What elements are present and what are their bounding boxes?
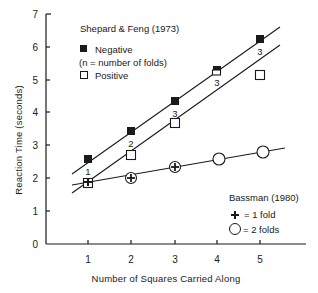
n-label-3: 3 <box>172 108 177 119</box>
negative-point-1 <box>84 155 92 163</box>
y-tick-2: 2 <box>32 173 38 184</box>
negative-point-5 <box>256 35 264 43</box>
bassman-point-4 <box>213 153 225 165</box>
x-tick-2: 2 <box>128 254 134 265</box>
legend1-title: Shepard & Feng (1973) <box>80 23 179 34</box>
y-tick-4: 4 <box>32 107 38 118</box>
y-tick-0: 0 <box>32 239 38 250</box>
n-label-5: 3 <box>257 46 262 57</box>
y-tick-7: 7 <box>32 9 38 20</box>
x-tick-4: 4 <box>214 254 220 265</box>
open-square-icon <box>81 72 88 79</box>
y-tick-5: 5 <box>32 75 38 86</box>
positive-point-3 <box>171 119 180 128</box>
plus-icon <box>231 211 239 219</box>
positive-point-2 <box>127 151 136 160</box>
y-tick-3: 3 <box>32 140 38 151</box>
x-tick-1: 1 <box>85 254 91 265</box>
y-tick-6: 6 <box>32 42 38 53</box>
positive-point-4 <box>213 70 221 75</box>
legend2-plus: = 1 fold <box>244 209 275 220</box>
open-circle-icon <box>230 224 241 235</box>
y-axis-title: Reaction Time (seconds) <box>13 85 24 195</box>
legend2-title: Bassman (1980) <box>229 192 299 203</box>
x-tick-labels: 1 2 3 4 5 <box>85 254 263 265</box>
legend-shepard-feng: Shepard & Feng (1973) Negative (n = numb… <box>79 23 179 81</box>
legend1-negative: Negative <box>95 44 133 55</box>
y-tick-labels: 7 6 5 4 3 2 1 0 <box>32 9 38 250</box>
legend1-positive: Positive <box>95 70 128 81</box>
y-tick-1: 1 <box>32 206 38 217</box>
x-tick-3: 3 <box>172 254 178 265</box>
legend1-note: (n = number of folds) <box>79 57 167 68</box>
filled-square-icon <box>80 45 87 52</box>
positive-point-5 <box>256 71 265 80</box>
legend-bassman: Bassman (1980) = 1 fold = 2 folds <box>229 192 299 235</box>
bassman-point-5 <box>257 146 269 158</box>
x-axis-title: Number of Squares Carried Along <box>92 273 241 284</box>
n-label-4: 3 <box>214 77 219 88</box>
reaction-time-chart: 7 6 5 4 3 2 1 0 1 2 3 4 5 Number of Squa… <box>0 0 318 293</box>
negative-point-2 <box>127 127 135 135</box>
bassman-series <box>84 146 269 186</box>
n-label-2: 2 <box>128 138 133 149</box>
n-label-1: 1 <box>85 166 90 177</box>
x-tick-5: 5 <box>257 254 263 265</box>
legend2-circle: = 2 folds <box>243 224 279 235</box>
negative-point-3 <box>171 97 179 105</box>
